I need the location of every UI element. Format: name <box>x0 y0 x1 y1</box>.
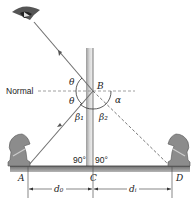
knight-object-icon <box>8 134 30 166</box>
incident-arrow <box>57 123 62 127</box>
theta-lower-arc <box>76 91 82 104</box>
ground <box>10 166 190 172</box>
mirror-diagram: Normal θ θ B α β₁ β₂ 90° 90° A C D d₀ dᵢ <box>0 0 195 202</box>
theta-upper-arc <box>76 78 82 91</box>
beta1-label: β₁ <box>74 112 84 122</box>
point-a-label: A <box>17 173 25 183</box>
angle-right-label: 90° <box>95 155 108 165</box>
reflected-arrow <box>58 50 62 56</box>
alpha-arc <box>106 91 111 104</box>
angle-left-label: 90° <box>73 155 86 165</box>
point-c-label: C <box>90 173 97 183</box>
beta2-label: β₂ <box>98 112 108 122</box>
normal-label: Normal <box>6 86 34 96</box>
eye-icon <box>12 6 40 20</box>
d-object-label: d₀ <box>54 184 64 194</box>
knight-image-icon <box>168 134 190 166</box>
alpha-label: α <box>115 95 121 105</box>
theta-upper-label: θ <box>69 77 75 87</box>
theta-lower-label: θ <box>69 96 75 106</box>
point-b-label: B <box>96 81 104 91</box>
reflected-ray <box>34 22 93 91</box>
d-image-label: dᵢ <box>129 184 137 194</box>
point-d-label: D <box>175 173 183 183</box>
